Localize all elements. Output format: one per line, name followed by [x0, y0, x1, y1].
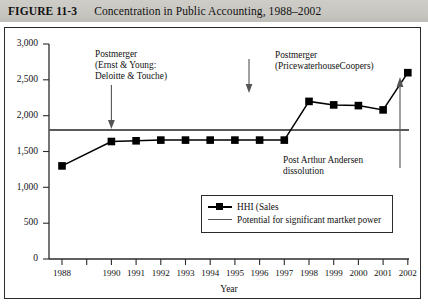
y-tick-label-3000: 3,000 [4, 39, 38, 49]
y-tick-label-2000: 2,000 [4, 111, 38, 121]
legend-label-hhi: HHI (Sales [237, 202, 279, 212]
annotation-post-arthur-andersen-line-1: Post Arthur Andersen [283, 155, 363, 166]
annotation-arrow-pwc [246, 59, 253, 93]
legend-label-reference: Potential for significant martket power [237, 215, 381, 225]
x-axis-ticks [62, 259, 408, 265]
x-tick-label-2002: 2002 [391, 269, 425, 278]
y-tick-label-1000: 1,000 [4, 183, 38, 193]
annotation-post-arthur-andersen: Post Arthur Andersen dissolution [283, 155, 363, 177]
figure-caption-bar: FIGURE 11-3 Concentration in Public Acco… [0, 0, 428, 22]
legend-entry-hhi: HHI (Sales [208, 200, 385, 213]
figure-caption: FIGURE 11-3 Concentration in Public Acco… [0, 5, 321, 17]
legend-line-square-marker-icon [208, 201, 232, 212]
legend-entry-reference: Potential for significant martket power [208, 213, 385, 226]
annotation-arrow-ey-dt [108, 85, 115, 129]
figure-frame: 3,000 2,500 2,000 1,500 1,000 500 0 1988… [4, 27, 421, 299]
y-tick-label-0: 0 [4, 254, 38, 264]
legend-plain-line-icon [208, 214, 232, 225]
annotation-post-arthur-andersen-line-2: dissolution [283, 166, 363, 177]
figure-title: Concentration in Public Accounting, 1988… [94, 5, 321, 17]
annotation-arrow-arthur-andersen [397, 77, 404, 168]
annotation-postmerger-pwc-line-1: Postmerger [275, 50, 374, 61]
y-tick-label-500: 500 [4, 218, 38, 228]
plot-area: 3,000 2,500 2,000 1,500 1,000 500 0 1988… [5, 28, 422, 300]
chart-legend: HHI (Sales Potential for significant mar… [201, 195, 393, 233]
y-axis-ticks [43, 44, 49, 259]
y-tick-label-2500: 2,500 [4, 75, 38, 85]
annotation-postmerger-pwc: Postmerger (PricewaterhouseCoopers) [275, 50, 374, 72]
annotation-postmerger-pwc-line-2: (PricewaterhouseCoopers) [275, 61, 374, 72]
annotation-postmerger-ey-dt-line-2: (Ernst & Young: [95, 60, 167, 71]
annotation-postmerger-ey-dt: Postmerger (Ernst & Young: Deloitte & To… [95, 49, 167, 82]
x-axis-title: Year [189, 284, 269, 294]
figure-number: FIGURE 11-3 [8, 5, 77, 17]
y-tick-label-1500: 1,500 [4, 147, 38, 157]
annotation-postmerger-ey-dt-line-3: Deloitte & Touche) [95, 71, 167, 82]
figure-root: FIGURE 11-3 Concentration in Public Acco… [0, 0, 428, 305]
hhi-data-line [62, 73, 408, 166]
x-tick-label-1988: 1988 [45, 269, 79, 278]
annotation-postmerger-ey-dt-line-1: Postmerger [95, 49, 167, 60]
